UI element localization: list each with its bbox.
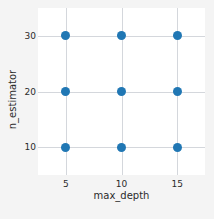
caption-fragment bbox=[0, 213, 214, 219]
data-point bbox=[61, 143, 70, 152]
plot-area bbox=[38, 8, 205, 175]
data-point bbox=[117, 87, 126, 96]
data-point bbox=[117, 143, 126, 152]
y-axis-label: n_estimator bbox=[6, 16, 19, 183]
data-point bbox=[173, 31, 182, 40]
data-point bbox=[61, 87, 70, 96]
y-tick-label-10: 10 bbox=[25, 142, 36, 152]
y-tick-label-20: 20 bbox=[25, 87, 36, 97]
data-point bbox=[61, 31, 70, 40]
y-tick-label-30: 30 bbox=[25, 31, 36, 41]
data-point bbox=[117, 31, 126, 40]
x-tick-label-5: 5 bbox=[63, 179, 69, 189]
x-axis-label: max_depth bbox=[38, 190, 205, 201]
data-point bbox=[173, 143, 182, 152]
scatter-plot-figure: 51015102030 max_depth n_estimator bbox=[0, 0, 214, 219]
x-tick-label-10: 10 bbox=[116, 179, 127, 189]
data-point bbox=[173, 87, 182, 96]
x-tick-label-15: 15 bbox=[171, 179, 182, 189]
